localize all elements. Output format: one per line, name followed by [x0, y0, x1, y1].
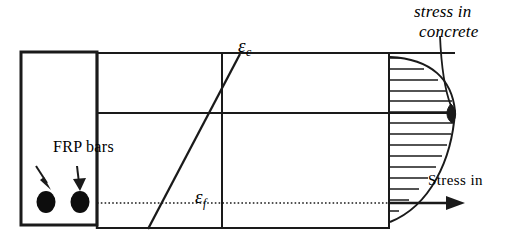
frp-bar-dot — [71, 191, 90, 213]
figure-container: εc εf FRP bars Stress in stress in concr… — [0, 0, 525, 242]
frp-bar-dot — [37, 191, 56, 213]
frp-bars-label: FRP bars — [53, 138, 114, 156]
stress-in-label: Stress in — [428, 172, 483, 189]
strain-concrete-label: εc — [219, 14, 251, 81]
leader-line — [440, 36, 451, 106]
stress-arrow-head-icon — [446, 196, 465, 210]
strain-concrete-symbol: ε — [238, 35, 246, 56]
strain-frp-label: εf — [176, 165, 206, 232]
strain-concrete-subscript: c — [246, 45, 252, 59]
strain-frp-subscript: f — [203, 196, 207, 210]
stress-in-concrete-label-line2: concrete — [419, 22, 479, 41]
strain-frp-symbol: ε — [195, 186, 203, 207]
stress-direction-arrow — [389, 196, 465, 210]
frp-bars-group — [36, 166, 90, 213]
frp-bar-pointer-head-icon — [73, 178, 86, 191]
stress-in-concrete-label-line1: stress in — [414, 2, 471, 21]
